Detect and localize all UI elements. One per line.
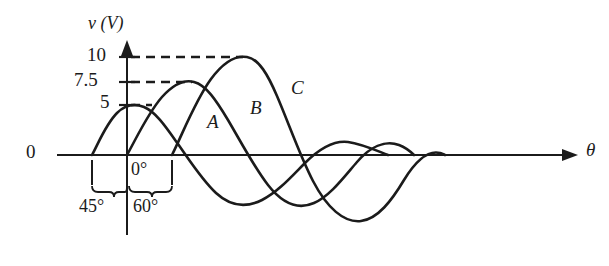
y-axis (121, 40, 133, 235)
angle-label-0: 0° (131, 160, 147, 178)
angle-braces (92, 186, 172, 197)
y-tick-label-5: 5 (100, 92, 110, 111)
x-axis-label: θ (586, 140, 595, 159)
curve-label-B: B (250, 98, 262, 117)
waveform-figure (0, 0, 609, 266)
y-tick-label-7point5: 7.5 (74, 70, 98, 89)
curve-B (127, 81, 414, 205)
origin-label: 0 (26, 142, 36, 161)
curve-C (172, 57, 445, 221)
curve-label-C: C (291, 78, 304, 97)
angle-label-45: 45° (79, 197, 104, 215)
y-tick-label-10: 10 (87, 45, 106, 64)
curve-label-A: A (207, 112, 219, 131)
y-axis-label: v (V) (88, 14, 123, 32)
angle-label-60: 60° (133, 197, 158, 215)
